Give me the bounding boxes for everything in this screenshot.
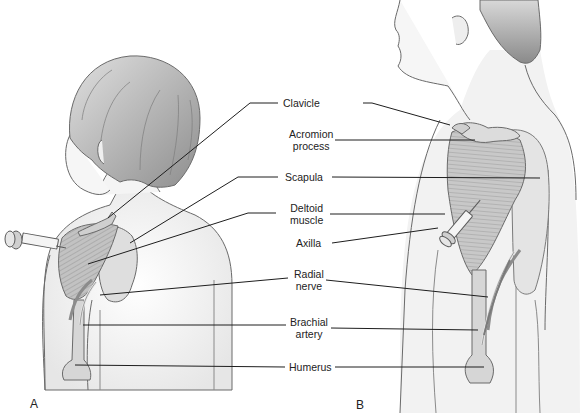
label-radial-line1: Radial (294, 268, 324, 280)
panel-b-figure (395, 0, 580, 413)
syringe-a-icon (5, 231, 66, 249)
label-brachial-line1: Brachial (290, 316, 328, 328)
label-deltoid-line1: Deltoid (290, 202, 323, 214)
label-acromion-process: Acromion process (287, 128, 335, 152)
label-radial-nerve: Radial nerve (292, 268, 326, 292)
label-clavicle: Clavicle (281, 97, 322, 109)
panel-label-b: B (356, 398, 364, 412)
panel-a-figure (5, 56, 232, 390)
panel-label-a: A (30, 397, 38, 411)
leader-clavicle-b (363, 103, 450, 125)
label-acromion-line1: Acromion (289, 128, 333, 140)
label-scapula: Scapula (283, 171, 325, 183)
label-brachial-line2: artery (290, 328, 328, 340)
label-brachial-artery: Brachial artery (288, 316, 330, 340)
label-deltoid-line2: muscle (290, 214, 323, 226)
label-axilla: Axilla (294, 237, 323, 249)
label-radial-line2: nerve (294, 280, 324, 292)
label-deltoid-muscle: Deltoid muscle (288, 202, 325, 226)
label-humerus: Humerus (287, 361, 334, 373)
label-acromion-line2: process (289, 140, 333, 152)
